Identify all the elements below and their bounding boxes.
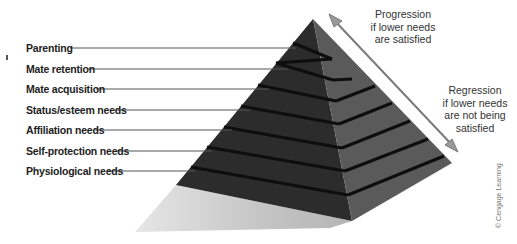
regression-note-line: if lower needs — [430, 97, 517, 110]
level-label-parenting: Parenting — [26, 42, 73, 54]
progression-note-line: Progression — [358, 8, 448, 21]
level-label-mate-acquisition: Mate acquisition — [26, 83, 105, 95]
level-label-mate-retention: Mate retention — [26, 63, 95, 75]
level-label-self-protection: Self-protection needs — [26, 145, 129, 157]
regression-note-line: are not being — [430, 109, 517, 122]
level-label-affiliation: Affiliation needs — [26, 124, 104, 136]
level-label-status-esteem: Status/esteem needs — [26, 104, 127, 116]
progression-note-line: if lower needs — [358, 21, 448, 34]
regression-note: Regression if lower needs are not being … — [430, 84, 517, 134]
hierarchy-of-needs-diagram: Parenting Mate retention Mate acquisitio… — [0, 0, 517, 244]
margin-mark — [6, 55, 8, 60]
regression-note-line: satisfied — [430, 122, 517, 135]
progression-note: Progression if lower needs are satisfied — [358, 8, 448, 46]
level-label-physiological: Physiological needs — [26, 165, 123, 177]
progression-note-line: are satisfied — [358, 33, 448, 46]
regression-note-line: Regression — [430, 84, 517, 97]
copyright-credit: © Cengage Learning — [495, 163, 502, 228]
